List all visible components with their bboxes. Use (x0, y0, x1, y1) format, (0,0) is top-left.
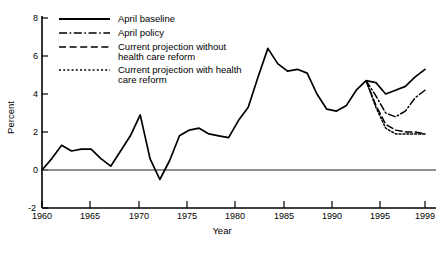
chart-figure: 8 6 4 2 0 -2 1960 1965 1970 1975 1980 19… (0, 0, 444, 260)
y-axis-title: Percent (5, 88, 16, 148)
x-tick-label-1970: 1970 (122, 211, 156, 221)
x-tick-label-1960: 1960 (25, 211, 59, 221)
legend-label-april-baseline: April baseline (118, 14, 175, 25)
x-tick-label-1990: 1990 (315, 211, 349, 221)
y-tick-label-0: 0 (22, 165, 38, 175)
x-tick-label-1995: 1995 (363, 211, 397, 221)
y-tick-label-6: 6 (22, 51, 38, 61)
series-april-policy (366, 81, 425, 117)
axis-lines (42, 16, 436, 208)
legend-label-projection-without-reform-line2: health care reform (118, 52, 195, 63)
legend-line-samples (59, 19, 110, 70)
legend-label-april-policy: April policy (118, 28, 164, 39)
x-axis-title: Year (0, 225, 444, 236)
x-tick-label-1980: 1980 (218, 211, 252, 221)
series-projection-with-reform (366, 81, 425, 134)
x-tick-label-1965: 1965 (73, 211, 107, 221)
x-axis-ticks (42, 201, 425, 208)
chart-plot-area (0, 0, 444, 260)
y-tick-label-8: 8 (22, 13, 38, 23)
series-projection-without-reform (366, 81, 425, 134)
x-tick-label-1999: 1999 (408, 211, 442, 221)
y-axis-ticks (42, 18, 48, 208)
legend-label-projection-with-reform-line2: care reform (118, 75, 167, 86)
x-tick-label-1985: 1985 (267, 211, 301, 221)
y-tick-label-4: 4 (22, 89, 38, 99)
x-tick-label-1975: 1975 (170, 211, 204, 221)
source-note (14, 250, 444, 259)
y-tick-label-2: 2 (22, 127, 38, 137)
